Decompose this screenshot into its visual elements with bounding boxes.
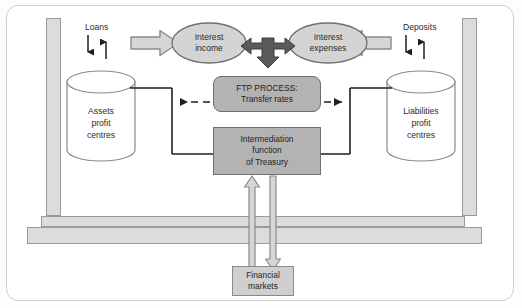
- intermediation-label: Intermediation function of Treasury: [240, 134, 293, 168]
- loans-label: Loans: [85, 22, 108, 32]
- interest-income-label: Interest income: [171, 32, 247, 55]
- financial-markets-label: Financial markets: [246, 270, 280, 293]
- assets-profit-centres-cylinder: Assets profit centres: [66, 70, 136, 162]
- financial-markets-up-block-arrow: [243, 175, 261, 271]
- ftp-process-box: FTP PROCESS: Transfer rates: [213, 76, 321, 112]
- assets-cylinder-label: Assets profit centres: [66, 106, 136, 141]
- income-expenses-treasury-triple-arrow: [240, 33, 296, 69]
- liabilities-profit-centres-cylinder: Liabilities profit centres: [386, 70, 456, 162]
- deposits-label: Deposits: [403, 22, 436, 32]
- liabilities-cylinder-label: Liabilities profit centres: [386, 106, 456, 141]
- financial-markets-down-block-arrow: [264, 175, 282, 271]
- deposits-thin-arrows: [398, 34, 442, 60]
- financial-markets-box: Financial markets: [232, 266, 294, 296]
- intermediation-box: Intermediation function of Treasury: [213, 127, 321, 175]
- loans-thin-arrows: [80, 34, 124, 60]
- interest-expenses-node: Interest expenses: [288, 22, 368, 64]
- right-pillar: [462, 18, 477, 216]
- ftp-process-label: FTP PROCESS: Transfer rates: [236, 83, 297, 106]
- left-pillar: [46, 18, 61, 216]
- diagram-canvas: Loans Deposits Interest income: [0, 0, 522, 308]
- interest-income-node: Interest income: [171, 22, 247, 64]
- interest-expenses-label: Interest expenses: [288, 32, 368, 55]
